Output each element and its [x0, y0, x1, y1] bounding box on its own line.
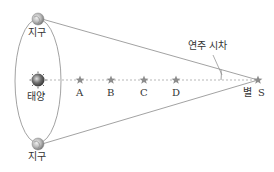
- sun-icon: [30, 72, 47, 89]
- earth-bottom-icon: [32, 138, 44, 150]
- star-a-icon: [76, 76, 85, 84]
- star-d-label: D: [172, 88, 180, 98]
- earth-bottom-label: 지구: [28, 152, 46, 162]
- star-a-label: A: [76, 88, 83, 98]
- parallax-leader-line: [213, 55, 222, 75]
- star-d-icon: [172, 76, 181, 84]
- star-s-prefix: 별: [243, 88, 252, 98]
- star-c-label: C: [140, 88, 148, 98]
- sight-line-bottom: [42, 80, 258, 144]
- parallax-label: 연주 시차: [188, 41, 227, 51]
- sun-label: 태양: [27, 92, 45, 102]
- star-b-label: B: [107, 88, 114, 98]
- earth-top-icon: [32, 13, 44, 25]
- star-b-icon: [107, 76, 116, 84]
- parallax-diagram: [0, 0, 274, 172]
- earth-top-label: 지구: [28, 28, 46, 38]
- star-s-label: S: [258, 88, 265, 98]
- star-c-icon: [140, 76, 149, 84]
- star-s-icon: [254, 76, 263, 84]
